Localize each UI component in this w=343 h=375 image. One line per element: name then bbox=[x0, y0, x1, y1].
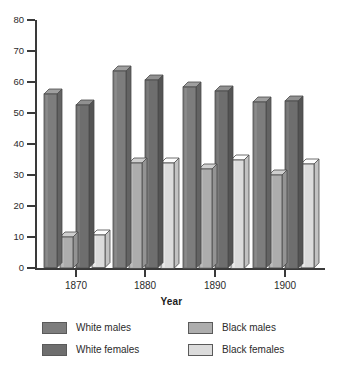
y-tick-mark bbox=[27, 205, 35, 206]
bar-white-males-1890 bbox=[183, 82, 203, 270]
legend-swatch-black-females bbox=[188, 344, 213, 356]
legend-label-black-males: Black males bbox=[222, 323, 276, 333]
y-tick-mark bbox=[27, 81, 35, 82]
y-tick-mark bbox=[27, 143, 35, 144]
x-tick-label: 1900 bbox=[255, 280, 315, 291]
x-axis-title: Year bbox=[0, 296, 343, 307]
y-tick-mark bbox=[27, 50, 35, 51]
y-tick-label: 80 bbox=[0, 15, 24, 25]
y-tick-mark bbox=[27, 267, 35, 268]
x-tick-label: 1870 bbox=[46, 280, 106, 291]
legend-swatch-black-males bbox=[188, 322, 213, 334]
y-tick-label: 20 bbox=[0, 201, 24, 211]
legend-item-white-males: White males bbox=[42, 322, 131, 334]
bar-white-males-1870 bbox=[44, 89, 64, 270]
y-tick-mark bbox=[27, 19, 35, 20]
y-tick-label: 70 bbox=[0, 46, 24, 56]
y-tick-label: 60 bbox=[0, 77, 24, 87]
legend-label-black-females: Black females bbox=[222, 345, 284, 355]
y-tick-label: 0 bbox=[0, 263, 24, 273]
y-tick-label: 10 bbox=[0, 232, 24, 242]
y-tick-label: 50 bbox=[0, 108, 24, 118]
y-axis-line bbox=[35, 20, 37, 269]
legend-label-white-males: White males bbox=[76, 323, 131, 333]
bar-white-males-1880 bbox=[113, 66, 133, 270]
x-tick-label: 1890 bbox=[185, 280, 245, 291]
x-tick-label: 1880 bbox=[115, 280, 175, 291]
y-tick-label: 30 bbox=[0, 170, 24, 180]
legend-item-white-females: White females bbox=[42, 344, 139, 356]
bar-chart: 01020304050607080 bbox=[0, 0, 343, 375]
legend-swatch-white-males bbox=[42, 322, 67, 334]
bar-white-males-1900 bbox=[253, 97, 273, 270]
y-tick-mark bbox=[27, 112, 35, 113]
legend-item-black-males: Black males bbox=[188, 322, 276, 334]
legend-item-black-females: Black females bbox=[188, 344, 284, 356]
y-tick-mark bbox=[27, 174, 35, 175]
y-tick-label: 40 bbox=[0, 139, 24, 149]
chart-legend: White males White females Black males Bl… bbox=[42, 322, 312, 370]
y-tick-mark bbox=[27, 236, 35, 237]
legend-swatch-white-females bbox=[42, 344, 67, 356]
legend-label-white-females: White females bbox=[76, 345, 139, 355]
